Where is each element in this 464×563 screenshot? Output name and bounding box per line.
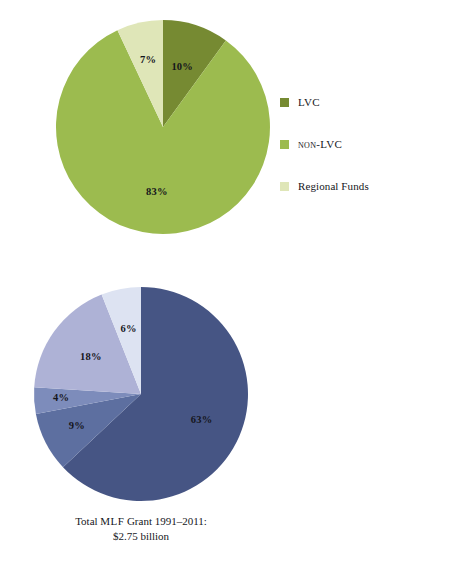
legend-swatch-regional-funds [280, 182, 289, 191]
pie-chart-1: 10% 83% 7% [55, 19, 271, 235]
legend-label-lvc: LVC [298, 96, 320, 109]
chart-mlf-grant-by-country-type: 10% 83% 7% LVC non-LVC Regional Funds [0, 0, 464, 250]
legend-label-regional-funds: Regional Funds [298, 180, 369, 193]
pie-slice-label-latin-america-and-the-caribbean: 18% [80, 351, 102, 362]
pie-slice-label-asia-and-the-pacific: 63% [191, 414, 213, 425]
caption-line-2: $2.75 billion [33, 529, 249, 544]
pie-charts-figure: 10% 83% 7% LVC non-LVC Regional Funds [0, 0, 464, 563]
pie-slice-label-regional-funds: 7% [140, 54, 156, 65]
chart-mlf-grant-by-region: 63% 9% 4% 18% 6% Asia and the Pacific Af… [0, 267, 464, 563]
legend-swatch-lvc [280, 98, 289, 107]
pie-slice-label-lvc: 10% [171, 61, 193, 72]
pie-slice-label-global: 6% [121, 323, 137, 334]
pie-1-slices [56, 20, 270, 234]
legend-chart-1: LVC non-LVC Regional Funds [280, 94, 369, 220]
pie-chart-2-svg: 63% 9% 4% 18% 6% [33, 286, 249, 502]
pie-slice-label-africa: 9% [69, 420, 85, 431]
caption-line-1: Total MLF Grant 1991–2011: [33, 514, 249, 529]
caption-prefix: Total [75, 515, 100, 527]
pie-chart-1-svg: 10% 83% 7% [55, 19, 271, 235]
caption-acronym-mlf: MLF [100, 515, 124, 527]
legend-swatch-non-lvc [280, 140, 289, 149]
chart-caption: Total MLF Grant 1991–2011: $2.75 billion [33, 514, 249, 544]
legend-item-regional-funds[interactable]: Regional Funds [280, 178, 369, 194]
legend-item-lvc[interactable]: LVC [280, 94, 369, 110]
caption-suffix: Grant 1991–2011: [124, 515, 207, 527]
legend-item-non-lvc[interactable]: non-LVC [280, 136, 369, 152]
legend-label-non-lvc: non-LVC [298, 138, 342, 151]
pie-slice-label-non-lvc: 83% [146, 186, 168, 197]
pie-slice-label-europe: 4% [53, 392, 69, 403]
pie-chart-2: 63% 9% 4% 18% 6% [33, 286, 249, 502]
